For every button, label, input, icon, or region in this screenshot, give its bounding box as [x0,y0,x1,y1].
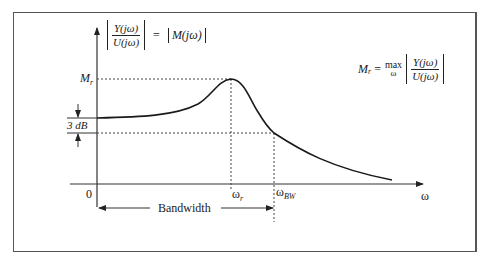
abs-bar-right [144,20,145,50]
magnitude-curve [97,79,392,180]
formula-abs-right [443,54,444,84]
transfer-fraction: Y(jω) U(jω) [111,23,141,48]
mr-main: M [80,71,90,85]
formula-equals: = [374,63,381,75]
formula-abs-left [406,54,407,84]
formula-numerator: Y(jω) [411,57,439,70]
x-axis-label: ω [421,190,429,202]
max-operator: max ω [385,60,402,77]
denominator: U(jω) [111,36,141,48]
formula-m: M [358,63,368,75]
abs-bar-left-2 [168,28,169,43]
mr-sub: r [90,78,93,87]
omega-bw-label: ωBW [276,186,295,198]
mr-label: Mr [80,72,93,84]
omega-bw-sub: BW [284,192,296,201]
resonant-peak-formula: Mr = max ω Y(jω) U(jω) [358,54,447,84]
diagram-canvas [0,0,491,268]
origin-label: 0 [86,188,92,200]
formula-fraction: Y(jω) U(jω) [410,57,440,82]
m-jw-label: M(jω) [172,29,202,41]
numerator: Y(jω) [112,23,140,36]
equals-sign: = [153,29,160,41]
formula-denominator: U(jω) [410,70,440,82]
three-db-label: 3 dB [67,120,87,131]
max-sub-omega: ω [391,69,397,77]
omega-r-sub: r [240,194,243,203]
omega-r-main: ω [232,187,240,201]
omega-r-label: ωr [232,188,243,200]
abs-bar-right-2 [205,28,206,43]
omega-bw-main: ω [276,185,284,199]
bandwidth-label: Bandwidth [158,202,211,214]
formula-sub-r: r [368,68,371,76]
abs-bar-left [107,20,108,50]
y-axis-label: Y(jω) U(jω) = M(jω) [104,20,209,50]
